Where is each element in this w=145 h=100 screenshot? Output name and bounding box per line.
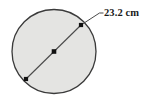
geometry-figure: 23.2 cm: [0, 0, 145, 100]
diameter-measurement-label: 23.2 cm: [104, 8, 139, 19]
center-dot: [52, 49, 57, 54]
endpoint-dot-lower-left: [24, 77, 28, 81]
leader-line: [81, 13, 104, 25]
endpoint-dot-upper-right: [79, 23, 83, 27]
